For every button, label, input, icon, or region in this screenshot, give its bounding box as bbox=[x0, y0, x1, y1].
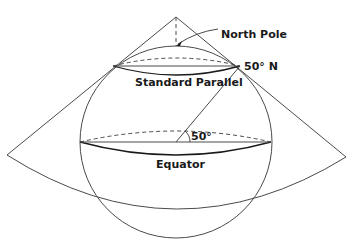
latitude-label: 50° N bbox=[244, 60, 278, 73]
standard-parallel-front bbox=[113, 66, 240, 75]
north-pole-leader bbox=[178, 29, 218, 44]
angle-arc bbox=[185, 131, 190, 142]
conic-projection-diagram: North Pole 50° N Standard Parallel 50° E… bbox=[0, 0, 361, 250]
equator-back bbox=[80, 131, 271, 142]
standard-parallel-label: Standard Parallel bbox=[135, 76, 243, 89]
standard-parallel-back bbox=[113, 58, 240, 66]
angle-label: 50° bbox=[191, 130, 212, 143]
north-pole-label: North Pole bbox=[221, 28, 287, 41]
equator-front bbox=[80, 142, 271, 155]
equator bbox=[80, 131, 271, 155]
equator-label: Equator bbox=[156, 158, 205, 171]
standard-parallel bbox=[113, 58, 240, 75]
north-pole-arrow-icon bbox=[176, 41, 182, 46]
